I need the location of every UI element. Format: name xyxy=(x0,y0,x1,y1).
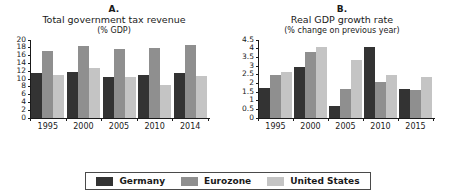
chart-legend: GermanyEurozoneUnited States xyxy=(0,172,456,190)
y-axis-tick-label: 4 xyxy=(12,98,26,106)
x-axis-tick-label-2015: 2015 xyxy=(398,122,433,131)
legend-box: GermanyEurozoneUnited States xyxy=(85,172,370,190)
y-axis-tick-mark xyxy=(28,55,31,56)
y-axis-tick-mark xyxy=(256,40,259,41)
x-axis-tick-label-2005: 2005 xyxy=(328,122,363,131)
y-axis-tick-mark xyxy=(256,48,259,49)
bar-germany-2000 xyxy=(67,72,78,117)
y-axis-tick-label: 18 xyxy=(12,43,26,51)
y-axis-tick-label: 4 xyxy=(238,44,254,52)
bar-eurozone-2000 xyxy=(305,52,316,118)
y-axis-tick-label: 4.5 xyxy=(238,36,254,44)
panel-b-titles: B. Real GDP growth rate (% change on pre… xyxy=(228,0,456,36)
bar-united-states-2000 xyxy=(89,68,100,118)
panel-a-titles: A. Total government tax revenue (% GDP) xyxy=(0,0,228,36)
legend-swatch-germany xyxy=(96,177,113,186)
x-axis-tick-label-2014: 2014 xyxy=(172,122,208,131)
y-axis-tick-label: 2 xyxy=(12,106,26,114)
y-axis-tick-mark xyxy=(256,66,259,67)
panel-a: A. Total government tax revenue (% GDP) … xyxy=(0,0,228,158)
x-axis-tick-mark xyxy=(208,119,209,122)
panel-a-title: Total government tax revenue xyxy=(0,15,228,26)
bar-united-states-2010 xyxy=(386,75,397,117)
x-axis-tick-label-2010: 2010 xyxy=(363,122,398,131)
y-axis-tick-mark xyxy=(256,74,259,75)
y-axis-tick-mark xyxy=(256,109,259,110)
legend-entry-united-states[interactable]: United States xyxy=(267,176,359,186)
y-axis-tick-mark xyxy=(28,86,31,87)
bar-germany-2014 xyxy=(174,73,185,117)
panel-a-plot-wrap: 0246810121416182019952000200520102014 xyxy=(0,40,228,134)
figure-root: A. Total government tax revenue (% GDP) … xyxy=(0,0,456,194)
y-axis-tick-mark xyxy=(28,79,31,80)
x-axis-tick-label-2000: 2000 xyxy=(66,122,102,131)
y-axis-tick-label: 1 xyxy=(238,96,254,104)
bar-united-states-2005 xyxy=(125,77,136,118)
legend-swatch-united-states xyxy=(267,177,284,186)
y-axis-tick-label: 3.5 xyxy=(238,53,254,61)
bar-united-states-2000 xyxy=(316,47,327,118)
y-axis-tick-mark xyxy=(28,71,31,72)
x-axis-tick-mark xyxy=(433,119,434,122)
y-axis-tick-mark xyxy=(28,47,31,48)
bar-eurozone-1995 xyxy=(270,75,281,117)
bar-eurozone-2014 xyxy=(185,45,196,118)
y-axis-tick-label: 16 xyxy=(12,51,26,59)
bar-united-states-2005 xyxy=(351,60,362,117)
y-axis-tick-mark xyxy=(256,57,259,58)
y-axis-tick-label: 10 xyxy=(12,75,26,83)
x-axis-tick-label-2005: 2005 xyxy=(101,122,137,131)
bar-eurozone-2005 xyxy=(114,49,125,118)
y-axis-tick-label: 14 xyxy=(12,59,26,67)
panel-b: B. Real GDP growth rate (% change on pre… xyxy=(228,0,456,158)
x-axis-tick-label-1995: 1995 xyxy=(258,122,293,131)
y-axis-tick-label: 3 xyxy=(238,62,254,70)
y-axis-tick-label: 0 xyxy=(238,114,254,122)
y-axis-tick-mark xyxy=(28,40,31,41)
bar-eurozone-1995 xyxy=(42,51,53,118)
y-axis-tick-mark xyxy=(28,94,31,95)
legend-label-united-states: United States xyxy=(290,176,359,186)
y-axis-tick-label: 1.5 xyxy=(238,88,254,96)
panel-a-subtitle: (% GDP) xyxy=(0,27,228,36)
y-axis-tick-mark xyxy=(256,92,259,93)
bar-eurozone-2005 xyxy=(340,89,351,118)
bar-eurozone-2010 xyxy=(375,82,386,118)
y-axis-tick-mark xyxy=(256,100,259,101)
x-axis-tick-label-1995: 1995 xyxy=(30,122,66,131)
bar-germany-1995 xyxy=(259,88,270,117)
bar-eurozone-2000 xyxy=(78,46,89,118)
y-axis-tick-label: 6 xyxy=(12,90,26,98)
legend-label-eurozone: Eurozone xyxy=(204,176,251,186)
panel-b-plot-wrap: 00.511.522.533.544.519952000200520102015 xyxy=(228,40,456,134)
y-axis-tick-label: 0.5 xyxy=(238,105,254,113)
bar-germany-2010 xyxy=(138,75,149,118)
x-axis-tick-mark-origin xyxy=(258,119,259,122)
y-axis-tick-label: 8 xyxy=(12,82,26,90)
bar-united-states-2010 xyxy=(160,85,171,117)
bar-united-states-2015 xyxy=(421,77,432,118)
bar-germany-2000 xyxy=(294,67,305,117)
bar-germany-2005 xyxy=(329,106,340,118)
x-axis-line xyxy=(30,118,210,119)
bar-germany-2010 xyxy=(364,47,375,117)
panels-container: A. Total government tax revenue (% GDP) … xyxy=(0,0,456,158)
x-axis-tick-label-2010: 2010 xyxy=(137,122,173,131)
panel-a-letter: A. xyxy=(0,4,228,14)
bar-germany-1995 xyxy=(31,73,42,117)
bar-eurozone-2015 xyxy=(410,90,421,118)
y-axis-tick-label: 2 xyxy=(238,79,254,87)
x-axis-tick-label-2000: 2000 xyxy=(293,122,328,131)
y-axis-tick-label: 20 xyxy=(12,36,26,44)
legend-entry-germany[interactable]: Germany xyxy=(96,176,165,186)
bar-germany-2005 xyxy=(103,77,114,118)
x-axis-tick-mark-origin xyxy=(30,119,31,122)
y-axis-tick-label: 2.5 xyxy=(238,70,254,78)
bar-united-states-1995 xyxy=(53,75,64,118)
bar-eurozone-2010 xyxy=(149,48,160,117)
panel-b-letter: B. xyxy=(228,4,456,14)
legend-entry-eurozone[interactable]: Eurozone xyxy=(181,176,251,186)
panel-b-title: Real GDP growth rate xyxy=(228,15,456,26)
bar-united-states-2014 xyxy=(196,76,207,118)
y-axis-tick-label: 12 xyxy=(12,67,26,75)
